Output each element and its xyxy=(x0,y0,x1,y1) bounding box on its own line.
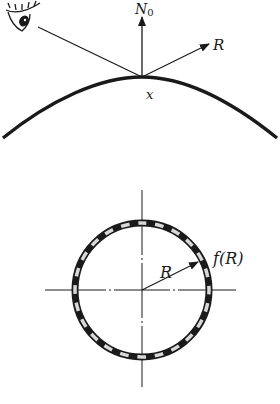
bottom-figure: R f(R) xyxy=(45,190,243,387)
radius-label: R xyxy=(159,263,172,282)
reflection-arrow xyxy=(142,44,209,77)
top-figure: N0 R x xyxy=(3,1,277,138)
view-ray xyxy=(38,27,142,77)
point-label: x xyxy=(146,87,154,102)
function-label: f(R) xyxy=(212,249,243,268)
reflection-label: R xyxy=(212,36,224,54)
normal-label: N0 xyxy=(134,1,154,18)
diagram-canvas: N0 R x R f(R) xyxy=(0,0,280,404)
eye-icon xyxy=(6,1,40,31)
surface-curve xyxy=(3,77,277,138)
